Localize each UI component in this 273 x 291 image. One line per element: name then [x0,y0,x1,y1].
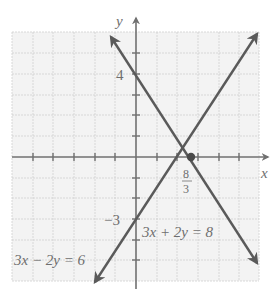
x-axis-label: x [260,165,268,181]
coordinate-plane: y x 4 −3 8 3 3x + 2y = 8 3x − 2y = 6 [0,0,273,291]
svg-text:8: 8 [183,167,189,181]
x-intercept-point [187,153,195,161]
equation-label-3x-plus-2y-eq-8: 3x + 2y = 8 [141,224,214,240]
y-tick-label-4: 4 [116,67,124,83]
equation-label-3x-minus-2y-eq-6: 3x − 2y = 6 [13,252,86,268]
y-axis-label: y [114,13,123,29]
y-tick-label-neg3: −3 [104,212,120,228]
svg-text:3: 3 [183,182,189,196]
